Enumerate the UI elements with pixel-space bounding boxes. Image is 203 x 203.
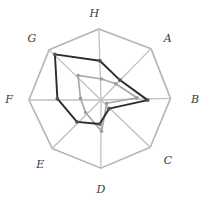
radar-chart: ABCDEFGH [0, 0, 203, 203]
grid-spoke-a [101, 49, 151, 100]
axis-label-g: G [27, 32, 36, 45]
grid-spoke-h [99, 29, 101, 100]
series-2-point-e [84, 111, 87, 114]
axis-label-a: A [163, 32, 172, 45]
series-1-point-c [107, 107, 111, 111]
radar-chart-canvas: ABCDEFGH [0, 0, 203, 203]
series-2-point-d [100, 130, 103, 133]
series-2-point-f [79, 97, 82, 100]
series-2-point-h [100, 77, 103, 80]
series-1-point-h [98, 59, 102, 63]
axis-label-c: C [164, 154, 173, 167]
series-1-point-e [75, 120, 79, 124]
axis-label-b: B [190, 93, 199, 106]
axis-label-h: H [88, 7, 99, 20]
series-1-point-g [53, 52, 57, 56]
series-2-point-c [105, 102, 108, 105]
series-2-point-g [76, 74, 79, 77]
axis-label-d: D [96, 183, 106, 196]
series-1-point-b [146, 98, 150, 102]
series-2-point-a [114, 82, 117, 85]
axis-label-f: F [4, 93, 13, 106]
series-1-point-d [98, 122, 102, 126]
series-2-point-b [135, 96, 138, 99]
axis-label-e: E [35, 158, 44, 171]
series-1-point-f [55, 97, 59, 101]
series-1-point-a [118, 78, 122, 82]
